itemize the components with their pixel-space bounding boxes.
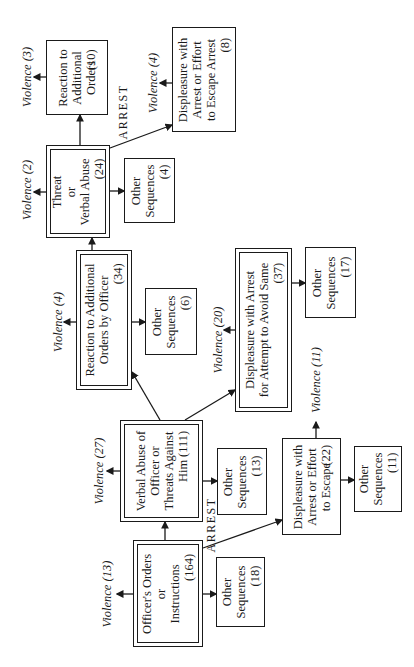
node-count: (37) (271, 263, 285, 397)
violence-label-verbal-abuse-officer: Violence (27) (92, 438, 107, 505)
violence-label-reaction-orders-officer: Violence (4) (51, 292, 66, 353)
node-other-sequences-11: Other Sequences (11) (354, 446, 402, 512)
node-reaction-orders-officer: Reaction to Additional Orders by Officer… (76, 250, 132, 390)
arrest-label-upper: ARREST (116, 84, 131, 139)
node-displeasure-avoid: Displeasure with Arrest for Attempt to A… (235, 248, 292, 412)
violence-label-officers-orders: Violence (13) (100, 561, 115, 628)
violence-label-displeasure-escape: Violence (11) (309, 347, 324, 413)
node-other-sequences-17: Other Sequences (17) (305, 247, 356, 318)
violence-label-reaction-additional: Violence (3) (20, 47, 35, 108)
node-verbal-abuse-officer: Verbal Abuse of Officer or Threats Again… (120, 420, 203, 522)
violence-label-displeasure-avoid: Violence (20) (211, 307, 226, 374)
node-officers-orders-text: Officer's Orders or Instructions (164) (140, 553, 196, 633)
node-count: (34) (111, 263, 125, 376)
arrest-label-lower: ARREST (204, 497, 219, 552)
node-displeasure-escape: Displeasure with Arrest or Effort to Esc… (282, 438, 341, 535)
node-count: (164) (182, 553, 196, 633)
node-other-sequences-4: Other Sequences (4) (124, 158, 175, 223)
node-displeasure-escape-arrest: Displeasure with Arrest or Effort to Esc… (172, 27, 236, 132)
node-other-sequences-18: Other Sequences (18) (216, 557, 265, 627)
node-reaction-additional-orders: Reaction to Additional Orders (10) (46, 40, 108, 115)
violence-label-threat-verbal: Violence (2) (20, 160, 35, 221)
node-officers-orders: Officer's Orders or Instructions (164) (133, 540, 203, 647)
node-other-sequences-13: Other Sequences (13) (217, 448, 267, 515)
node-threat-verbal-abuse: Threat or Verbal Abuse (24) (46, 145, 110, 238)
violence-label-displeasure-escape-arrest: Violence (4) (146, 53, 161, 114)
node-count: (24) (92, 158, 106, 225)
node-count: (8) (218, 37, 232, 121)
node-other-sequences-6: Other Sequences (6) (145, 288, 197, 355)
